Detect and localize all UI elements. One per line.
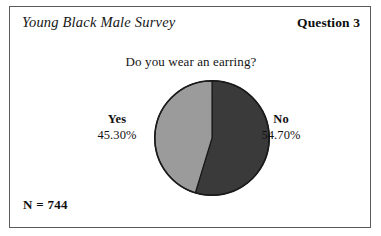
pie-label-yes: Yes 45.30% [84,112,150,143]
survey-question-figure: Young Black Male Survey Question 3 Do yo… [0,0,381,236]
sample-size-label: N = 744 [23,197,68,213]
pie-label-no: No 54.70% [248,112,314,143]
survey-title: Young Black Male Survey [22,14,175,31]
figure-frame: Young Black Male Survey Question 3 Do yo… [9,6,371,228]
pie-label-yes-name: Yes [84,112,150,128]
question-number-label: Question 3 [297,15,360,31]
chart-title: Do you wear an earring? [10,54,372,70]
pie-label-no-value: 54.70% [248,128,314,144]
figure-header: Young Black Male Survey Question 3 [10,7,372,39]
pie-label-no-name: No [248,112,314,128]
pie-label-yes-value: 45.30% [84,128,150,144]
